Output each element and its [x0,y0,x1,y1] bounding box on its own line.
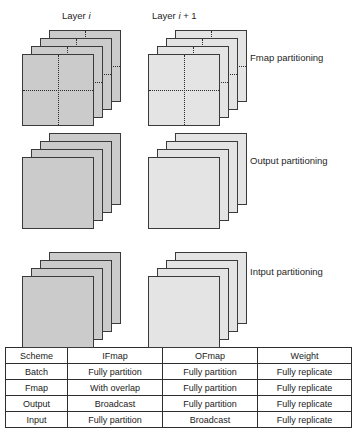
feature-map-sheet [148,54,220,126]
output-right-stack [148,133,252,233]
cell-ofmap: Fully partition [163,396,258,412]
cell-weight: Fully replicate [258,412,352,428]
table-row: Fmap With overlap Fully partition Fully … [6,380,352,396]
cell-ofmap: Broadcast [163,412,258,428]
vertical-partition-divider [58,55,59,125]
feature-map-sheet [148,157,220,229]
table-row: Output Broadcast Fully partition Fully r… [6,396,352,412]
partitioning-diagram: Fmap partitioning Output partitioning In… [0,0,356,340]
diagram-row-output [0,133,356,233]
cell-weight: Fully replicate [258,396,352,412]
row-caption-input: Intput partitioning [250,266,323,277]
cell-ifmap: Fully partition [68,364,163,380]
row-caption-output: Output partitioning [250,155,328,166]
cell-weight: Fully replicate [258,364,352,380]
row-caption-fmap: Fmap partitioning [250,52,323,63]
table-row: Batch Fully partition Fully partition Fu… [6,364,352,380]
table-row: Input Fully partition Broadcast Fully re… [6,412,352,428]
cell-scheme: Output [6,396,68,412]
cell-weight: Fully replicate [258,380,352,396]
input-left-stack [22,252,126,352]
cell-ofmap: Fully partition [163,364,258,380]
feature-map-sheet [22,157,94,229]
cell-ofmap: Fully partition [163,380,258,396]
cell-ifmap: With overlap [68,380,163,396]
diagram-row-fmap [0,30,356,130]
fmap-left-stack [22,30,126,130]
column-header-weight: Weight [258,348,352,364]
column-header-scheme: Scheme [6,348,68,364]
fmap-right-stack [148,30,252,130]
horizontal-partition-divider [23,90,93,91]
cell-scheme: Fmap [6,380,68,396]
cell-scheme: Batch [6,364,68,380]
cell-scheme: Input [6,412,68,428]
feature-map-sheet [22,276,94,348]
feature-map-sheet [22,54,94,126]
feature-map-sheet [148,276,220,348]
table-header-row: Scheme IFmap OFmap Weight [6,348,352,364]
cell-ifmap: Fully partition [68,412,163,428]
column-header-ifmap: IFmap [68,348,163,364]
input-right-stack [148,252,252,352]
column-header-ofmap: OFmap [163,348,258,364]
cell-ifmap: Broadcast [68,396,163,412]
partitioning-scheme-table: Scheme IFmap OFmap Weight Batch Fully pa… [5,347,352,428]
vertical-partition-divider [184,55,185,125]
output-left-stack [22,133,126,233]
horizontal-partition-divider [149,90,219,91]
